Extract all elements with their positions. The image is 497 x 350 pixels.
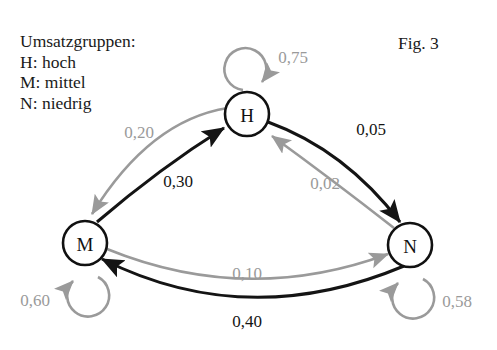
label-edge-m-to-h: 0,30 xyxy=(163,172,193,192)
node-h-label: H xyxy=(240,105,254,126)
label-edge-n-to-h: 0,02 xyxy=(310,174,340,194)
self-loop-m-path xyxy=(67,277,109,317)
label-self-loop-n: 0,58 xyxy=(442,292,472,312)
node-n-label: N xyxy=(403,236,417,257)
edge-h-to-m xyxy=(92,108,228,214)
state-transition-diagram: H M N xyxy=(0,0,497,350)
label-self-loop-m: 0,60 xyxy=(20,291,50,311)
edge-m-to-h xyxy=(97,128,224,222)
node-n[interactable]: N xyxy=(388,223,432,267)
self-loop-n xyxy=(392,279,434,319)
self-loop-m xyxy=(67,277,109,317)
edge-h-to-m-path xyxy=(92,108,228,214)
self-loop-h xyxy=(224,48,266,90)
node-m-label: M xyxy=(77,234,94,255)
edge-m-to-h-path xyxy=(97,128,224,222)
label-edge-m-to-n: 0,10 xyxy=(232,264,262,284)
node-h[interactable]: H xyxy=(225,92,269,136)
label-edge-n-to-m: 0,40 xyxy=(232,312,262,332)
figure-canvas: Umsatzgruppen: H: hoch M: mittel N: nied… xyxy=(0,0,497,350)
self-loop-h-path xyxy=(224,48,266,90)
label-self-loop-h: 0,75 xyxy=(278,48,308,68)
label-edge-h-to-n: 0,05 xyxy=(356,120,386,140)
self-loop-n-path xyxy=(392,279,434,319)
node-m[interactable]: M xyxy=(63,221,107,265)
label-edge-h-to-m: 0,20 xyxy=(124,123,154,143)
